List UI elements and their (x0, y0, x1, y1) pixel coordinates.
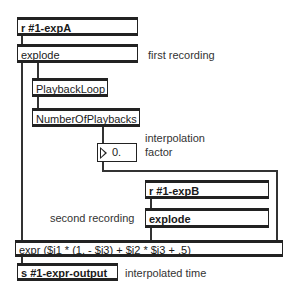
receive-expA-object[interactable]: r #1-expA (17, 17, 138, 36)
factor-label: factor (145, 145, 205, 159)
receive-expB-label: r #1-expB (149, 185, 199, 197)
number-box-value: 0. (112, 146, 121, 158)
first-recording-comment: first recording (148, 48, 215, 62)
second-recording-comment: second recording (50, 211, 134, 225)
cord-recvA-explodeA (21, 36, 23, 44)
cord-playbackloop-numberofplaybacks (37, 97, 39, 108)
explode-a-object[interactable]: explode (17, 44, 138, 63)
receive-expB-object[interactable]: r #1-expB (145, 180, 269, 199)
playbackloop-label: PlaybackLoop (36, 83, 105, 95)
expr-object[interactable]: expr ($i1 * (1. - $i3) + $i2 * $i3 + .5) (15, 240, 283, 257)
interpolation-label: interpolation (145, 131, 205, 145)
cord-numbox-horizontal (102, 170, 277, 172)
interpolation-number-box[interactable]: 0. (97, 143, 137, 162)
cord-expr-send (21, 256, 23, 263)
explode-b-object[interactable]: explode (145, 208, 269, 228)
number-box-arrow-icon (100, 147, 107, 159)
playbackloop-object[interactable]: PlaybackLoop (32, 78, 108, 97)
receive-expA-label: r #1-expA (21, 22, 71, 34)
cord-numberofplaybacks-numbox (102, 127, 104, 143)
interpolated-time-comment: interpolated time (125, 266, 206, 280)
interpolation-factor-comment: interpolation factor (145, 131, 205, 159)
cord-explodeB-expr-middle (150, 228, 152, 240)
explode-a-label: explode (21, 49, 60, 61)
numberofplaybacks-label: NumberOfPlaybacks (36, 113, 137, 125)
cord-numbox-expr-right (276, 170, 278, 240)
cord-explodeA-playbackloop (37, 63, 39, 78)
send-expr-output-object[interactable]: s #1-expr-output (17, 263, 118, 281)
expr-label: expr ($i1 * (1. - $i3) + $i2 * $i3 + .5) (19, 244, 191, 256)
numberofplaybacks-object[interactable]: NumberOfPlaybacks (32, 108, 140, 127)
send-output-label: s #1-expr-output (21, 267, 107, 279)
cord-recvB-explodeB (150, 198, 152, 208)
explode-b-label: explode (149, 213, 191, 225)
cord-explodeA-expr-left (21, 63, 23, 240)
